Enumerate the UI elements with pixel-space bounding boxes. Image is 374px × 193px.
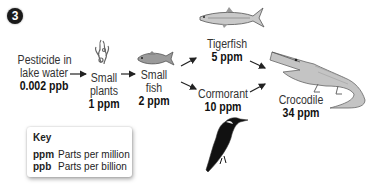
- node-value: 1 ppm: [88, 98, 120, 111]
- key-entry-ppb: ppbParts per billion: [33, 161, 127, 172]
- arrow-fish-to-tigerfish: [181, 58, 196, 66]
- arrow-tigerfish-to-crocodile: [250, 61, 265, 68]
- node-value: 0.002 ppb: [18, 80, 71, 93]
- tigerfish-icon: [200, 7, 264, 28]
- node-label-line1: Small: [141, 68, 167, 82]
- node-label-line1: Tigerfish: [207, 37, 247, 51]
- plant-icon: [95, 40, 108, 64]
- small-fish-icon: [138, 51, 174, 65]
- node-pesticide-in-water: Pesticide in lake water 0.002 ppb: [18, 54, 71, 93]
- node-tigerfish: Tigerfish 5 ppm: [203, 38, 251, 64]
- node-label-line2: fish: [146, 81, 162, 95]
- node-small-fish: Small fish 2 ppm: [136, 69, 171, 108]
- node-cormorant: Cormorant 10 ppm: [196, 88, 251, 114]
- arrow-fish-to-cormorant: [181, 82, 196, 89]
- node-label-line1: Crocodile: [279, 93, 324, 107]
- arrow-cormorant-to-crocodile: [250, 84, 265, 92]
- key-abbr: ppm: [33, 149, 58, 160]
- key-legend: Key ppmParts per million ppbParts per bi…: [27, 127, 132, 177]
- node-value: 10 ppm: [196, 101, 251, 114]
- node-small-plants: Small plants 1 ppm: [88, 72, 120, 111]
- key-meaning: Parts per billion: [58, 161, 127, 172]
- node-label-line1: Cormorant: [198, 87, 248, 101]
- node-label-line2: lake water: [20, 66, 68, 80]
- key-entry-ppm: ppmParts per million: [33, 149, 130, 160]
- node-value: 2 ppm: [136, 95, 171, 108]
- node-value: 34 ppm: [274, 107, 329, 120]
- key-abbr: ppb: [33, 161, 58, 172]
- node-crocodile: Crocodile 34 ppm: [274, 94, 329, 120]
- node-label-line2: plants: [90, 84, 118, 98]
- node-label-line1: Small: [91, 71, 117, 85]
- cormorant-icon: [206, 118, 248, 172]
- key-title: Key: [33, 132, 51, 143]
- node-value: 5 ppm: [203, 51, 251, 64]
- node-label-line1: Pesticide in: [18, 53, 72, 67]
- key-meaning: Parts per million: [58, 149, 130, 160]
